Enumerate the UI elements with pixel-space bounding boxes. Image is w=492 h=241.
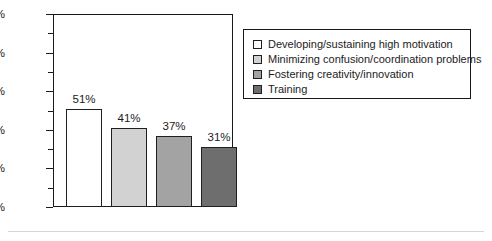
- bar-value-label: 31%: [201, 131, 237, 143]
- footer-divider: [8, 231, 484, 232]
- y-axis-tick-major: [46, 14, 53, 15]
- bar-value-label: 41%: [111, 112, 147, 124]
- legend-item: Developing/sustaining high motivation: [253, 37, 470, 51]
- legend-item-label: Developing/sustaining high motivation: [268, 39, 453, 50]
- y-axis-tick-label: 80%: [0, 47, 5, 59]
- y-axis-tick-label: 100%: [0, 8, 5, 20]
- bar: [156, 136, 192, 207]
- legend-item-label: Fostering creativity/innovation: [268, 69, 414, 80]
- legend-item-label: Training: [268, 84, 307, 95]
- y-axis-tick-label: 20%: [0, 162, 5, 174]
- y-axis-tick-label: 60%: [0, 85, 5, 97]
- bar: [201, 147, 237, 207]
- legend-item-label: Minimizing confusion/coordination proble…: [268, 54, 481, 65]
- legend-item: Fostering creativity/innovation: [253, 67, 470, 81]
- y-axis-tick-major: [46, 168, 53, 169]
- legend-swatch-icon: [253, 55, 262, 64]
- legend-item: Minimizing confusion/coordination proble…: [253, 52, 470, 66]
- bar-value-label: 37%: [156, 120, 192, 132]
- legend-item: Training: [253, 82, 470, 96]
- y-axis: 0%20%40%60%80%100%: [0, 0, 53, 241]
- bar-value-label: 51%: [66, 93, 102, 105]
- y-axis-tick-major: [46, 91, 53, 92]
- chart-legend: Developing/sustaining high motivationMin…: [243, 29, 471, 99]
- y-axis-tick-major: [46, 130, 53, 131]
- legend-swatch-icon: [253, 70, 262, 79]
- y-axis-tick-label: 0%: [0, 201, 5, 213]
- legend-swatch-icon: [253, 85, 262, 94]
- y-axis-tick-major: [46, 53, 53, 54]
- legend-swatch-icon: [253, 40, 262, 49]
- chart-page: 0%20%40%60%80%100% 51%41%37%31% Developi…: [0, 0, 492, 241]
- bar: [111, 128, 147, 207]
- y-axis-tick-major: [46, 207, 53, 208]
- bar: [66, 109, 102, 207]
- y-axis-tick-label: 40%: [0, 124, 5, 136]
- bar-series: 51%41%37%31%: [53, 14, 233, 207]
